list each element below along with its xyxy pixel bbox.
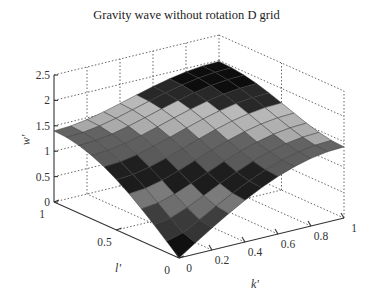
k-tick — [275, 229, 278, 234]
k-tick-label: 0.2 — [215, 254, 230, 266]
l-tick-label: 0.5 — [97, 236, 112, 248]
k-tick — [308, 221, 311, 226]
z-tick-label: 1.5 — [36, 120, 51, 132]
k-tick — [209, 245, 212, 250]
z-tick-label: 2 — [44, 94, 50, 106]
k-tick-label: 0.8 — [314, 230, 329, 242]
l-axis-label: l' — [115, 261, 121, 275]
k-tick — [242, 237, 245, 242]
w-axis-label: w' — [19, 134, 33, 145]
k-axis-label: k' — [251, 277, 259, 291]
k-tick-label: 0.6 — [281, 238, 296, 250]
k-tick-label: 0 — [186, 262, 192, 274]
chart-container: Gravity wave without rotation D grid 00.… — [0, 0, 373, 293]
z-tick-label: 2.5 — [36, 69, 51, 81]
k-tick-label: 1 — [351, 222, 357, 234]
surface-plot: 00.511.522.500.20.40.60.8100.51k'l'w' — [0, 0, 373, 293]
z-tick-label: 0.5 — [36, 171, 51, 183]
z-tick-label: 0 — [44, 196, 50, 208]
k-tick-label: 0.4 — [248, 246, 263, 258]
l-tick-label: 1 — [39, 208, 45, 220]
z-tick-label: 1 — [44, 145, 50, 157]
l-tick-label: 0 — [164, 264, 170, 276]
